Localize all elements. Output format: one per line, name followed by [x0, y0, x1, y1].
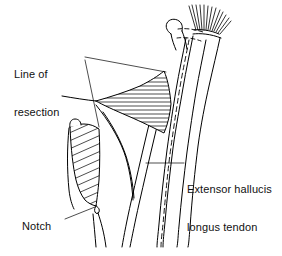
caption-fragment	[2, 243, 4, 252]
figure-canvas: Line of resection Notch Extensor halluci…	[0, 0, 282, 256]
distal-bone-edge	[98, 213, 106, 247]
annotation-ehl-line1: Extensor hallucis	[187, 183, 272, 196]
leader-notch	[65, 207, 95, 219]
proximal-hook	[166, 19, 187, 50]
annotation-notch: Notch	[22, 220, 51, 233]
hatched-block-left	[58, 114, 112, 234]
annotation-line-of-resection: Line of resection	[14, 43, 60, 143]
leader-resection-lower	[85, 60, 99, 127]
leader-resection-upper	[85, 57, 166, 72]
annotation-extensor-hallucis-longus-tendon: Extensor hallucis longus tendon	[187, 158, 272, 256]
annotation-line-of-resection-line2: resection	[14, 106, 60, 119]
hatched-wedge-upper	[88, 71, 180, 133]
dashed-tendon-upper	[177, 29, 203, 41]
distal-bone-edge-inner	[93, 214, 96, 247]
annotation-line-of-resection-line1: Line of	[14, 68, 60, 81]
arch-curve-main	[96, 105, 133, 200]
wedge-left-connector	[62, 96, 96, 101]
arch-curve-inner	[103, 112, 134, 198]
annotation-ehl-line2: longus tendon	[187, 221, 272, 234]
